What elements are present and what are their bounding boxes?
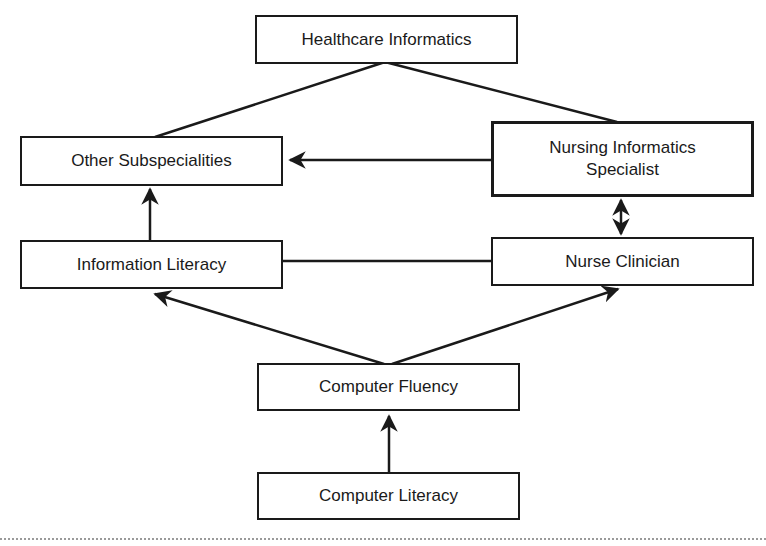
node-label: Computer Literacy [319, 485, 458, 507]
node-computer-fluency: Computer Fluency [257, 363, 520, 411]
node-healthcare-informatics: Healthcare Informatics [255, 15, 518, 64]
node-nurse-clinician: Nurse Clinician [491, 237, 754, 286]
node-nursing-informatics-specialist: Nursing Informatics Specialist [491, 121, 754, 197]
node-computer-literacy: Computer Literacy [257, 472, 520, 520]
node-label: Information Literacy [77, 254, 226, 276]
edge-fluency-to-infolit-arrow [155, 294, 384, 364]
node-label-line2: Specialist [586, 159, 659, 181]
node-label: Nurse Clinician [565, 251, 679, 273]
edge-healthcare-to-nis [385, 62, 617, 122]
dotted-divider [0, 538, 766, 540]
node-label-line1: Nursing Informatics [549, 137, 695, 159]
edge-fluency-to-nurse-arrow [392, 289, 618, 364]
edge-healthcare-to-other [155, 62, 385, 137]
node-other-subspecialities: Other Subspecialities [20, 136, 283, 186]
node-label: Computer Fluency [319, 376, 458, 398]
node-label: Healthcare Informatics [301, 29, 471, 51]
node-information-literacy: Information Literacy [20, 240, 283, 289]
node-label: Other Subspecialities [71, 150, 232, 172]
